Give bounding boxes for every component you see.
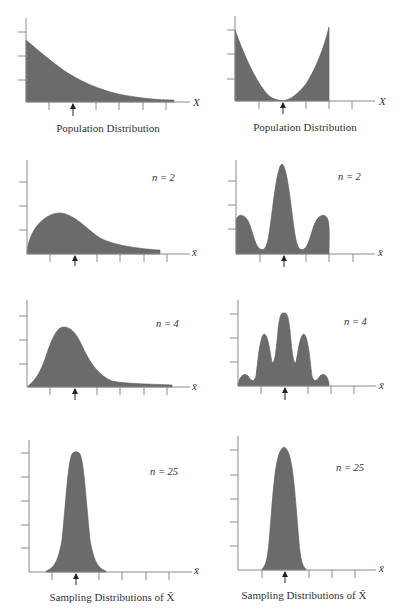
mean-arrow-icon <box>282 571 288 583</box>
mean-arrow-icon <box>281 255 287 267</box>
x-axis-label: x̄ <box>378 379 384 391</box>
exponential-population-curve <box>26 40 174 102</box>
x-axis-label: X <box>192 96 201 108</box>
x-axis-label: x̄ <box>378 562 384 574</box>
panel-left-n25: n = 25 x̄ Sampling Distributions of X̄ <box>21 440 199 603</box>
sampling-curve-n25-left <box>46 452 106 572</box>
panel-left-population: X Population Distribution <box>18 18 201 134</box>
x-axis-label: x̄ <box>191 246 197 258</box>
n-label: n = 25 <box>150 466 178 477</box>
central-limit-theorem-figure: X Population Distribution n = 2 x̄ <box>0 0 412 613</box>
mean-arrow-icon <box>282 387 288 400</box>
panel-right-population: X Population Distribution <box>227 16 387 133</box>
caption-population-left: Population Distribution <box>56 122 160 134</box>
x-axis-label: x̄ <box>193 564 199 576</box>
mean-arrow-icon <box>72 388 78 400</box>
panel-left-n2: n = 2 x̄ <box>19 160 197 266</box>
sampling-curve-n25-right <box>262 447 306 570</box>
sampling-curve-n4-left <box>28 327 172 387</box>
mean-arrow-icon <box>280 102 286 114</box>
x-axis-label: X <box>378 95 387 107</box>
mean-arrow-icon <box>72 255 78 266</box>
u-shaped-population-curve <box>235 27 329 101</box>
panel-left-n4: n = 4 x̄ <box>19 300 197 400</box>
n-label: n = 2 <box>152 172 176 183</box>
panel-right-n25: n = 25 x̄ Sampling Distributions of X̄ <box>230 436 384 601</box>
x-axis-label: x̄ <box>191 380 197 392</box>
caption-population-right: Population Distribution <box>253 121 357 133</box>
mean-arrow-icon <box>73 573 79 585</box>
panel-right-n2: n = 2 x̄ <box>228 160 383 267</box>
x-axis-label: x̄ <box>377 246 383 258</box>
panel-right-n4: n = 4 x̄ <box>230 300 384 400</box>
mean-arrow-icon <box>70 103 76 116</box>
n-label: n = 4 <box>344 316 368 327</box>
caption-sampling-left: Sampling Distributions of X̄ <box>50 591 175 603</box>
sampling-curve-n4-right <box>238 313 329 386</box>
n-label: n = 2 <box>338 171 362 182</box>
n-label: n = 25 <box>336 462 364 473</box>
sampling-curve-n2-right <box>236 164 329 254</box>
sampling-curve-n2-left <box>27 213 160 254</box>
n-label: n = 4 <box>156 318 180 329</box>
caption-sampling-right: Sampling Distributions of X̄ <box>242 589 367 601</box>
